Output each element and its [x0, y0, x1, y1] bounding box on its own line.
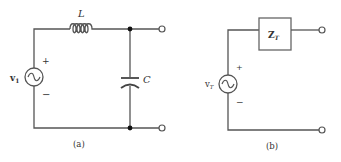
wire-b-left-top [228, 30, 259, 75]
terminal-b-top [319, 27, 325, 33]
source-b-minus: − [236, 97, 244, 107]
source-a-label: v1 [9, 73, 19, 84]
capacitor-label: C [143, 74, 151, 85]
ac-source-a-icon [25, 68, 43, 86]
node-a-top [128, 27, 133, 32]
source-a-plus: + [42, 56, 50, 66]
circuit-figure: + − v1 L C (a) + − vT ZT (b) [0, 0, 341, 162]
source-b-label: vT [204, 79, 214, 90]
caption-a: (a) [73, 139, 85, 149]
node-a-bottom [128, 126, 133, 131]
terminal-a-bottom [159, 125, 165, 131]
terminal-a-top [159, 26, 165, 32]
inductor-icon [70, 24, 95, 33]
circuit-a: + − v1 L C (a) [9, 8, 165, 149]
source-a-minus: − [42, 89, 50, 100]
source-b-plus: + [236, 63, 243, 72]
wire-a-left-top [34, 29, 70, 68]
circuit-b: + − vT ZT (b) [204, 18, 325, 151]
wire-a-bottom [34, 86, 159, 128]
terminal-b-bottom [319, 127, 325, 133]
caption-b: (b) [266, 141, 278, 151]
inductor-label: L [77, 8, 85, 19]
ac-source-b-icon [219, 75, 237, 93]
